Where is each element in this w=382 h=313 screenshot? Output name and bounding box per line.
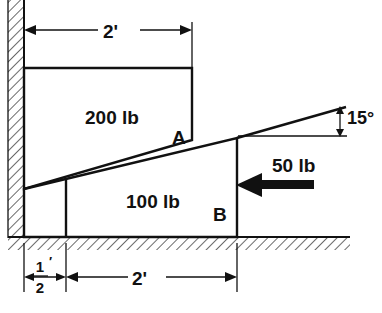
dimension-bottom: 1 2 ′ 2' <box>24 243 237 296</box>
applied-force: 50 lb <box>236 155 315 197</box>
dim-bottom-label: 2' <box>132 268 147 289</box>
wall-support <box>8 0 24 238</box>
angle-label: 15° <box>347 108 374 128</box>
dim-bottom-arrow-left <box>66 272 78 282</box>
wall-hatching <box>8 0 24 238</box>
ground-support <box>8 237 350 250</box>
upper-block <box>24 68 192 189</box>
dim-half-arrow-right <box>56 273 66 281</box>
upper-block-weight-label: 200 lb <box>85 107 139 128</box>
lower-wedge-weight-label: 100 lb <box>126 191 180 212</box>
dim-half-arrow-left <box>24 273 34 281</box>
angle-indicator: 15° <box>237 106 374 138</box>
dim-top-arrow-left <box>24 25 36 35</box>
force-arrow-head <box>236 173 262 197</box>
ground-hatching <box>8 237 350 250</box>
lower-wedge <box>24 138 237 237</box>
dim-top-arrow-right <box>180 25 192 35</box>
dim-top-label: 2' <box>103 21 118 42</box>
point-b-label: B <box>213 204 227 225</box>
dim-half-fraction: 1 2 ′ <box>33 254 52 296</box>
incline-extension-line <box>237 107 346 138</box>
dimension-top: 2' <box>24 21 192 70</box>
lower-wedge-outline <box>24 138 237 237</box>
applied-force-label: 50 lb <box>272 155 315 176</box>
dim-half-denominator: 2 <box>36 279 44 296</box>
dim-half-prime: ′ <box>49 254 52 269</box>
dim-half-numerator: 1 <box>36 258 44 275</box>
statics-wedge-figure: 15° 50 lb 200 lb 100 lb A B 2' <box>0 0 382 313</box>
dim-bottom-arrow-right <box>225 272 237 282</box>
figure-canvas: 15° 50 lb 200 lb 100 lb A B 2' <box>0 0 382 313</box>
point-a-label: A <box>172 127 186 148</box>
force-arrow-shaft <box>258 180 314 189</box>
upper-block-outline <box>24 68 192 189</box>
